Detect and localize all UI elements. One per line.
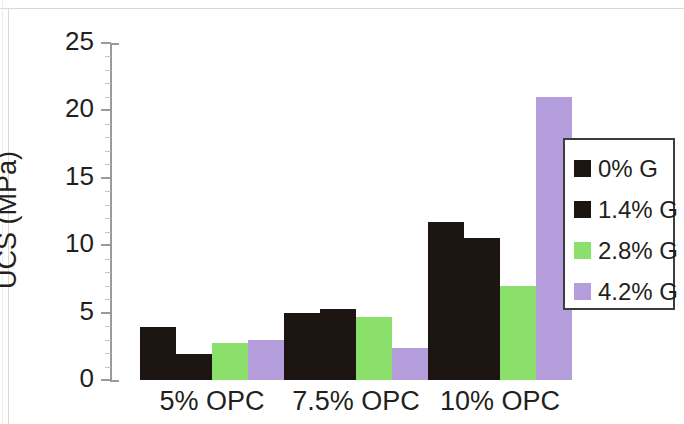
bar-group xyxy=(284,43,428,380)
y-tick-minor xyxy=(105,232,111,233)
y-tick-label: 5 xyxy=(34,298,94,324)
y-tick-major xyxy=(101,177,111,179)
bar xyxy=(320,309,356,380)
y-tick-minor xyxy=(105,326,111,327)
y-tick-minor xyxy=(105,286,111,287)
legend-item: 1.4% G xyxy=(574,189,673,230)
y-tick-minor xyxy=(105,137,111,138)
y-tick-major xyxy=(101,312,111,314)
y-tick-label: 10 xyxy=(34,230,94,256)
y-tick-minor xyxy=(105,272,111,273)
bar xyxy=(248,340,284,380)
y-tick-label: 20 xyxy=(34,95,94,121)
y-axis-title-wrap: UCS (MPa) xyxy=(0,0,32,120)
y-tick-major xyxy=(101,244,111,246)
bars-layer xyxy=(112,43,552,380)
bar xyxy=(212,343,248,380)
legend-swatch-icon xyxy=(574,283,591,300)
y-tick-minor xyxy=(105,367,111,368)
y-axis-cap-bottom xyxy=(110,380,119,382)
y-tick-minor xyxy=(105,164,111,165)
legend-item: 0% G xyxy=(574,148,673,189)
bar xyxy=(284,313,320,380)
bar-group xyxy=(428,43,572,380)
y-tick-minor xyxy=(105,124,111,125)
legend-label: 1.4% G xyxy=(598,196,678,224)
legend-swatch-icon xyxy=(574,242,591,259)
y-tick-minor xyxy=(105,340,111,341)
legend-swatch-icon xyxy=(574,201,591,218)
legend-label: 4.2% G xyxy=(598,278,678,306)
y-tick-minor xyxy=(105,218,111,219)
legend-label: 2.8% G xyxy=(598,237,678,265)
y-tick-label: 0 xyxy=(34,365,94,391)
bar xyxy=(176,354,212,380)
legend-label: 0% G xyxy=(598,155,658,183)
legend-swatch-icon xyxy=(574,160,591,177)
bar xyxy=(500,286,536,380)
y-tick-minor xyxy=(105,70,111,71)
y-tick-label: 15 xyxy=(34,163,94,189)
legend: 0% G1.4% G2.8% G4.2% G xyxy=(563,138,675,310)
y-tick-minor xyxy=(105,56,111,57)
y-tick-minor xyxy=(105,299,111,300)
legend-item: 4.2% G xyxy=(574,271,673,312)
y-tick-minor xyxy=(105,259,111,260)
bar xyxy=(464,238,500,380)
scan-edge-top xyxy=(0,8,684,9)
y-tick-major xyxy=(101,109,111,111)
legend-item: 2.8% G xyxy=(574,230,673,271)
y-tick-label: 25 xyxy=(34,28,94,54)
y-tick-minor xyxy=(105,97,111,98)
y-tick-minor xyxy=(105,205,111,206)
bar xyxy=(392,348,428,380)
bar xyxy=(140,327,176,380)
y-tick-minor xyxy=(105,151,111,152)
y-tick-major xyxy=(101,379,111,381)
bar xyxy=(428,222,464,380)
x-tick-label: 10% OPC xyxy=(398,386,602,417)
y-tick-minor xyxy=(105,353,111,354)
y-tick-major xyxy=(101,42,111,44)
chart-figure: 0510152025 UCS (MPa) 5% OPC7.5% OPC10% O… xyxy=(0,0,684,424)
y-tick-minor xyxy=(105,83,111,84)
bar xyxy=(356,317,392,380)
y-axis-title: UCS (MPa) xyxy=(0,120,23,320)
bar-group xyxy=(140,43,284,380)
y-tick-minor xyxy=(105,191,111,192)
